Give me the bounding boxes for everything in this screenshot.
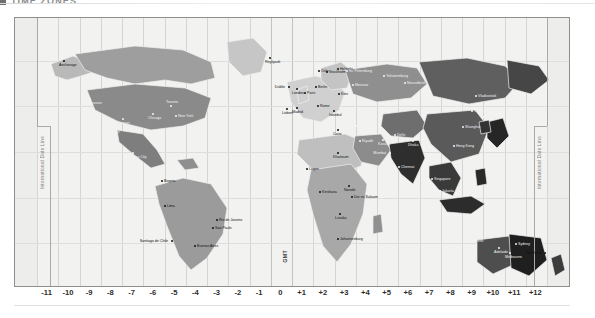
date-line-segment — [50, 126, 51, 286]
city-label: Sydney — [518, 242, 530, 246]
city-dot-icon — [439, 190, 441, 192]
city-label: Perth — [475, 239, 484, 243]
axis-tick-label: +5 — [382, 288, 391, 297]
axis-tick-label: -7 — [128, 288, 135, 297]
city-dot-icon — [161, 180, 163, 182]
axis-tick-label: +7 — [425, 288, 434, 297]
city-label: London — [292, 91, 304, 95]
city-label: Lagos — [309, 167, 319, 171]
city-dot-icon — [194, 245, 196, 247]
city-dot-icon — [351, 196, 353, 198]
date-line-segment — [37, 18, 38, 126]
city-dot-icon — [337, 68, 339, 70]
city-label: Jakarta — [442, 189, 454, 193]
axis-tick-label: -2 — [234, 288, 241, 297]
city-label: Mumbai — [373, 151, 386, 155]
axis-tick-label: +11 — [508, 288, 520, 297]
city-label: Adelaide — [494, 250, 508, 254]
city-label: Auckland — [526, 251, 541, 255]
city-label: Lusaka — [335, 216, 347, 220]
date-line-segment — [37, 126, 50, 127]
city-label: Chennai — [401, 165, 414, 169]
city-dot-icon — [382, 107, 384, 109]
city-dot-icon — [498, 247, 500, 249]
city-dot-icon — [404, 82, 406, 84]
city-dot-icon — [471, 110, 473, 112]
city-dot-icon — [462, 126, 464, 128]
city-dot-icon — [319, 191, 321, 193]
city-label: Lisbon — [282, 111, 293, 115]
city-label: Reykjavik — [265, 60, 280, 64]
city-dot-icon — [337, 129, 339, 131]
city-dot-icon — [171, 240, 173, 242]
city-dot-icon — [453, 107, 455, 109]
city-label: Tehran — [366, 119, 377, 123]
city-label: Manila — [469, 159, 480, 163]
city-dot-icon — [306, 168, 308, 170]
city-dot-icon — [407, 139, 409, 141]
city-label: Baghdad — [358, 124, 372, 128]
time-zones-page: TIME ZONES International Date Line Inter… — [0, 0, 595, 318]
city-dot-icon — [317, 105, 319, 107]
footer-divider — [14, 305, 570, 306]
city-dot-icon — [352, 84, 354, 86]
city-dot-icon — [296, 88, 298, 90]
parallel-line — [15, 61, 569, 62]
city-label: Moscow — [355, 83, 368, 87]
city-dot-icon — [509, 252, 511, 254]
city-label: Cairo — [333, 132, 342, 136]
city-label: Berlin — [318, 85, 327, 89]
city-label: Sao Paulo — [215, 226, 232, 230]
city-label: Lima — [167, 204, 175, 208]
city-dot-icon — [152, 113, 154, 115]
city-dot-icon — [269, 57, 271, 59]
city-dot-icon — [346, 70, 348, 72]
world-time-zones-map[interactable]: International Date Line International Da… — [14, 17, 570, 287]
city-dot-icon — [288, 86, 290, 88]
city-dot-icon — [544, 252, 546, 254]
city-dot-icon — [326, 71, 328, 73]
city-dot-icon — [515, 243, 517, 245]
city-label: Seoul — [474, 109, 483, 113]
gmt-meridian-label: GMT — [282, 250, 288, 263]
city-dot-icon — [89, 98, 91, 100]
date-line-label-left: International Date Line — [40, 136, 45, 189]
date-line-label-right: International Date Line — [537, 136, 542, 189]
axis-tick-label: +3 — [340, 288, 349, 297]
city-label: Toronto — [166, 100, 178, 104]
city-dot-icon — [453, 145, 455, 147]
city-dot-icon — [296, 107, 298, 109]
city-label: St. Petersburg — [349, 69, 372, 73]
city-label: Delhi — [397, 133, 405, 137]
city-label: Madrid — [292, 110, 303, 114]
city-label: Vancouver — [85, 101, 102, 105]
city-dot-icon — [170, 105, 172, 107]
axis-tick-label: +8 — [446, 288, 455, 297]
city-label: Melbourne — [505, 255, 522, 259]
axis-tick-label: 0 — [278, 288, 282, 297]
axis-tick-label: -3 — [213, 288, 220, 297]
city-label: Johannesburg — [340, 237, 363, 241]
city-dot-icon — [475, 95, 477, 97]
city-label: Anchorage — [59, 63, 76, 67]
city-label: Rio de Janeiro — [219, 218, 242, 222]
city-dot-icon — [363, 120, 365, 122]
parallel-line — [15, 106, 569, 107]
city-dot-icon — [216, 219, 218, 221]
axis-tick-label: +1 — [297, 288, 306, 297]
axis-tick-label: +4 — [361, 288, 370, 297]
city-label: Rome — [320, 104, 330, 108]
city-dot-icon — [304, 92, 306, 94]
date-line-segment — [547, 18, 548, 126]
city-label: New York — [178, 114, 193, 118]
parallel-line — [15, 198, 569, 199]
city-dot-icon — [412, 140, 414, 142]
utc-offset-axis: -11-10-9-8-7-6-5-4-3-2-10+1+2+3+4+5+6+7+… — [14, 288, 570, 304]
axis-tick-label: -11 — [41, 288, 52, 297]
city-dot-icon — [355, 125, 357, 127]
city-label: Yekaterinburg — [386, 74, 408, 78]
axis-tick-label: -4 — [192, 288, 199, 297]
city-label: Dar es Salaam — [354, 195, 378, 199]
city-label: Vladivostok — [478, 94, 496, 98]
city-label: Hong Kong — [456, 144, 474, 148]
